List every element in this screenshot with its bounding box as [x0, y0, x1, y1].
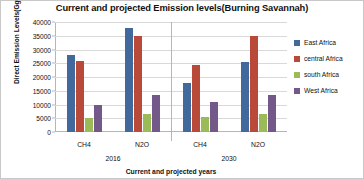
legend-label: West Africa [304, 87, 338, 94]
legend-label: central Africa [304, 55, 343, 62]
legend-swatch-icon [294, 56, 300, 62]
legend-label: East Africa [304, 39, 336, 46]
bar[interactable] [152, 95, 160, 132]
year-label: 2016 [55, 155, 171, 162]
legend-label: south Africa [304, 71, 339, 78]
bar[interactable] [143, 114, 151, 132]
bar[interactable] [210, 102, 218, 132]
bars-layer [55, 22, 287, 132]
category-label: N2O [229, 141, 287, 148]
y-tick-label: 20000 [33, 74, 51, 81]
year-label: 2030 [171, 155, 287, 162]
y-tick-label: 10000 [33, 101, 51, 108]
bar[interactable] [85, 118, 93, 132]
y-tick-label: 25000 [33, 60, 51, 67]
bar[interactable] [259, 114, 267, 132]
category-group [229, 22, 287, 132]
category-axis-labels: CH4N2OCH4N2O [55, 141, 287, 148]
y-tick-label: 0 [47, 129, 51, 136]
bar[interactable] [241, 62, 249, 132]
bar[interactable] [201, 117, 209, 132]
year-group [55, 22, 171, 132]
bar[interactable] [192, 65, 200, 132]
y-tick-label: 5000 [36, 115, 51, 122]
chart-legend: East Africacentral Africasouth AfricaWes… [294, 39, 343, 94]
bar[interactable] [94, 105, 102, 133]
y-tick-label: 35000 [33, 32, 51, 39]
category-label-block: CH4N2O [171, 141, 287, 148]
bar[interactable] [134, 36, 142, 132]
bar[interactable] [268, 95, 276, 132]
x-axis-title: Current and projected years [55, 168, 287, 175]
legend-item[interactable]: south Africa [294, 71, 343, 78]
legend-swatch-icon [294, 72, 300, 78]
bar[interactable] [183, 83, 191, 133]
plot-wrapper: 4000035000300002500020000150001000050000 [55, 22, 287, 132]
category-group [113, 22, 171, 132]
y-tick-label: 30000 [33, 46, 51, 53]
bar[interactable] [125, 28, 133, 133]
chart-title: Current and projected Emission levels(Bu… [1, 3, 363, 13]
category-label: CH4 [55, 141, 113, 148]
year-axis-labels: 20162030 [55, 155, 287, 162]
year-group [171, 22, 287, 132]
bar[interactable] [67, 55, 75, 132]
chart-container: Current and projected Emission levels(Bu… [0, 0, 364, 179]
y-axis-title: Direct Emission Levels(GgCO2e) [13, 0, 20, 93]
bar[interactable] [76, 61, 84, 133]
category-label-block: CH4N2O [55, 141, 171, 148]
bar[interactable] [250, 36, 258, 132]
legend-item[interactable]: East Africa [294, 39, 343, 46]
category-group [171, 22, 229, 132]
legend-item[interactable]: West Africa [294, 87, 343, 94]
y-tick-label: 40000 [33, 19, 51, 26]
category-label: CH4 [171, 141, 229, 148]
legend-swatch-icon [294, 88, 300, 94]
y-tick-label: 15000 [33, 87, 51, 94]
category-label: N2O [113, 141, 171, 148]
category-group [55, 22, 113, 132]
legend-item[interactable]: central Africa [294, 55, 343, 62]
legend-swatch-icon [294, 40, 300, 46]
